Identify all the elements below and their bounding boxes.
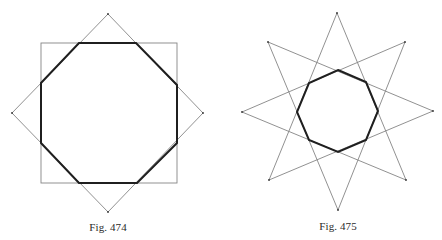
figure-475: Fig. 475 bbox=[221, 0, 442, 240]
figure-caption: Fig. 474 bbox=[89, 221, 126, 233]
figure-caption: Fig. 475 bbox=[319, 220, 356, 232]
figure-474: Fig. 474 bbox=[0, 0, 221, 240]
